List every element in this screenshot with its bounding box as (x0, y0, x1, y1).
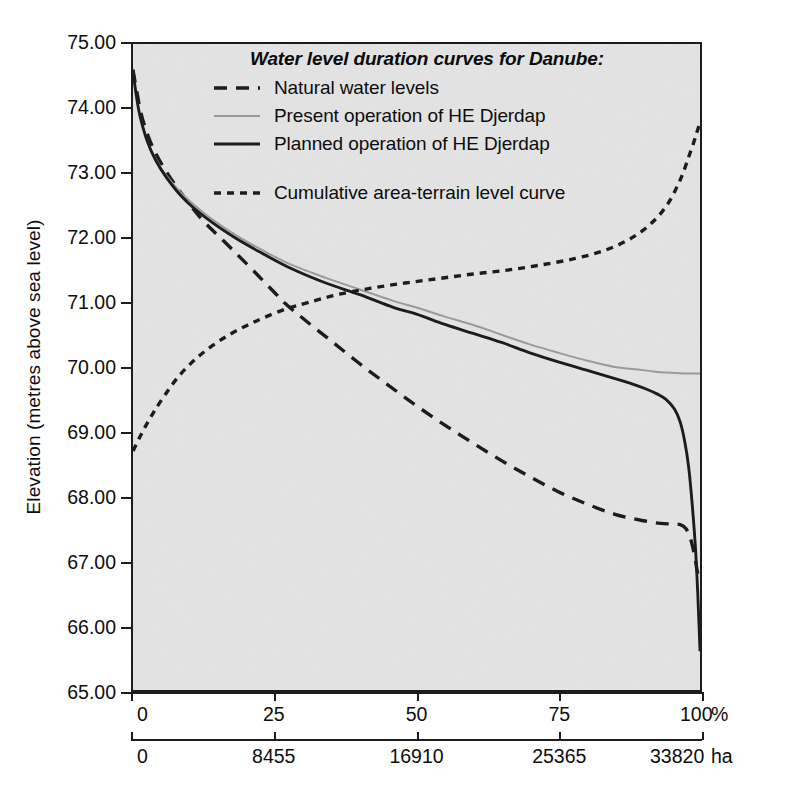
legend-item-label: Natural water levels (274, 77, 439, 99)
y-axis-tick-label: 73.00 (30, 161, 116, 184)
legend-item-label: Present operation of HE Djerdap (274, 105, 546, 127)
x-axis-hectares-tick (274, 732, 276, 740)
legend-item: Cumulative area-terrain level curve (214, 179, 644, 207)
x-axis-hectares-tick (417, 732, 419, 740)
legend-title: Water level duration curves for Danube: (250, 48, 644, 70)
x-axis-percent-unit: % (711, 703, 728, 726)
x-axis-hectares-tick (131, 732, 133, 740)
y-axis-tick-label: 65.00 (30, 681, 116, 704)
x-axis-percent-tick (702, 692, 704, 701)
legend-line-sample (214, 81, 260, 95)
legend-item: Present operation of HE Djerdap (214, 102, 644, 130)
x-axis-percent-tick-label: 100 (680, 703, 713, 726)
x-axis-hectares-tick-label: 25365 (532, 745, 586, 768)
y-axis-tick (121, 627, 131, 629)
y-axis-tick-label: 72.00 (30, 226, 116, 249)
y-axis-tick (121, 497, 131, 499)
y-axis-tick-label: 68.00 (30, 486, 116, 509)
y-axis-tick-label: 71.00 (30, 291, 116, 314)
x-axis-hectares-tick-label: 0 (137, 745, 148, 768)
y-axis-tick-label: 70.00 (30, 356, 116, 379)
x-axis-percent-tick (131, 692, 133, 701)
x-axis-percent-tick-label: 75 (548, 703, 570, 726)
y-axis-tick (121, 107, 131, 109)
legend-line-sample (214, 109, 260, 123)
legend: Water level duration curves for Danube: … (214, 48, 644, 207)
legend-items: Natural water levelsPresent operation of… (214, 74, 644, 207)
x-axis-percent-tick (559, 692, 561, 701)
y-axis-tick (121, 692, 131, 694)
x-axis-percent-tick (274, 692, 276, 701)
y-axis-tick-label: 74.00 (30, 96, 116, 119)
y-axis-tick (121, 562, 131, 564)
x-axis-hectares-tick (702, 732, 704, 740)
x-axis-hectares-tick-label: 33820 (650, 745, 704, 768)
legend-item-label: Cumulative area-terrain level curve (274, 182, 565, 204)
y-axis-tick-label: 69.00 (30, 421, 116, 444)
legend-line-sample (214, 137, 260, 151)
y-axis-tick (121, 302, 131, 304)
y-axis-tick (121, 367, 131, 369)
x-axis-hectares-tick (559, 732, 561, 740)
chart-figure: Elevation (metres above sea level) 65.00… (0, 0, 789, 793)
x-axis-percent-tick-label: 0 (137, 703, 148, 726)
y-axis-tick (121, 42, 131, 44)
legend-item: Planned operation of HE Djerdap (214, 130, 644, 158)
y-axis-tick-label: 75.00 (30, 31, 116, 54)
legend-item-label: Planned operation of HE Djerdap (274, 133, 550, 155)
y-axis-tick-label: 67.00 (30, 551, 116, 574)
legend-line-sample (214, 186, 260, 200)
y-axis-tick-label: 66.00 (30, 616, 116, 639)
x-axis-hectares-unit: ha (711, 745, 733, 768)
x-axis-percent-tick-label: 25 (263, 703, 285, 726)
y-axis-tick (121, 432, 131, 434)
x-axis-hectares-tick-label: 16910 (389, 745, 443, 768)
legend-item: Natural water levels (214, 74, 644, 102)
x-axis-hectares-tick-label: 8455 (252, 745, 295, 768)
y-axis-tick (121, 172, 131, 174)
x-axis-percent-tick-label: 50 (406, 703, 428, 726)
x-axis-percent-tick (417, 692, 419, 701)
y-axis-tick (121, 237, 131, 239)
